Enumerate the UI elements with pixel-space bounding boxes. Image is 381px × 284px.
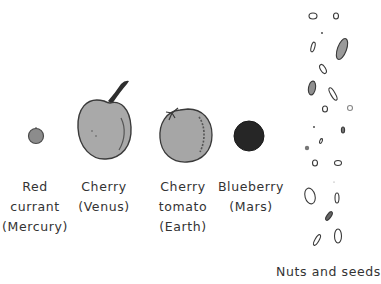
label-line: Cherry: [152, 177, 214, 197]
label-cherry-venus: Cherry (Venus): [74, 177, 134, 217]
label-blueberry-mars: Blueberry (Mars): [216, 177, 286, 217]
label-line: Red: [0, 177, 70, 197]
label-cherry-tomato-earth: Cherry tomato (Earth): [152, 177, 214, 237]
cherry-tomato-illustration: [160, 108, 212, 162]
label-nuts-and-seeds: Nuts and seeds: [276, 262, 381, 282]
label-line: (Venus): [74, 197, 134, 217]
label-line: Nuts and seeds: [276, 262, 381, 282]
label-line: (Mars): [216, 197, 286, 217]
nuts-and-seeds-illustration: [303, 13, 352, 246]
red-currant-illustration: [29, 127, 44, 144]
label-red-currant-mercury: Red currant (Mercury): [0, 177, 70, 237]
label-line: (Mercury): [0, 217, 70, 237]
label-line: tomato: [152, 197, 214, 217]
label-line: Cherry: [74, 177, 134, 197]
label-line: Blueberry: [216, 177, 286, 197]
blueberry-illustration: [234, 121, 264, 151]
label-line: (Earth): [152, 217, 214, 237]
planet-food-comparison-diagram: Red currant (Mercury) Cherry (Venus) Che…: [0, 0, 381, 284]
label-line: currant: [0, 197, 70, 217]
cherry-illustration: [78, 81, 131, 159]
illustration: [0, 0, 381, 284]
